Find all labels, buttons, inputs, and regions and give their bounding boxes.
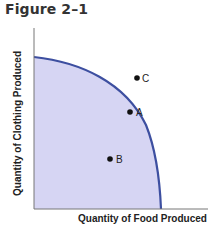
point-b-label: B: [116, 154, 123, 165]
point-c-label: C: [142, 73, 149, 84]
ppf-chart: C A B: [0, 0, 214, 236]
point-c: C: [134, 73, 149, 84]
x-axis-label: Quantity of Food Produced: [78, 213, 207, 224]
y-axis-label: Quantity of Clothing Produced: [12, 39, 23, 209]
point-a-label: A: [136, 107, 143, 118]
